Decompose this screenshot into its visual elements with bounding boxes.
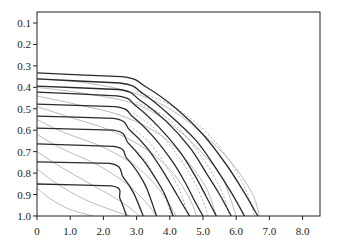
- y-tick-label: 0.4: [17, 81, 31, 93]
- x-tick-label: 8.0: [296, 225, 310, 237]
- x-tick-label: 2.0: [97, 225, 111, 237]
- x-tick-label: 3.0: [130, 225, 144, 237]
- x-tick-label: 4.0: [163, 225, 177, 237]
- y-tick-label: 1.0: [17, 210, 31, 222]
- y-tick-label: 0.1: [17, 17, 31, 29]
- y-tick-label: 0.8: [17, 167, 31, 179]
- x-tick-label: 1.0: [63, 225, 77, 237]
- y-tick-label: 0.9: [17, 189, 31, 201]
- series-gray-1: [37, 79, 259, 216]
- y-tick-label: 0.6: [17, 124, 31, 136]
- x-tick-label: 0: [34, 225, 40, 237]
- x-axis: 01.02.03.04.05.06.07.08.0: [34, 216, 310, 237]
- series-gray-9: [37, 188, 93, 216]
- chart-canvas: 0.10.20.30.40.50.60.70.80.91.0 01.02.03.…: [0, 0, 337, 247]
- y-tick-label: 0.5: [17, 103, 31, 115]
- series-dark-9: [37, 162, 143, 216]
- y-tick-label: 0.7: [17, 146, 31, 158]
- y-tick-label: 0.2: [17, 38, 31, 50]
- y-tick-label: 0.3: [17, 60, 31, 72]
- series-dash-4: [130, 126, 188, 216]
- series-gray-5: [37, 119, 176, 216]
- x-tick-label: 6.0: [229, 225, 243, 237]
- y-axis: 0.10.20.30.40.50.60.70.80.91.0: [17, 17, 37, 222]
- series-layer: [37, 73, 259, 216]
- x-tick-label: 5.0: [196, 225, 210, 237]
- series-dark-10: [37, 184, 127, 216]
- x-tick-label: 7.0: [263, 225, 277, 237]
